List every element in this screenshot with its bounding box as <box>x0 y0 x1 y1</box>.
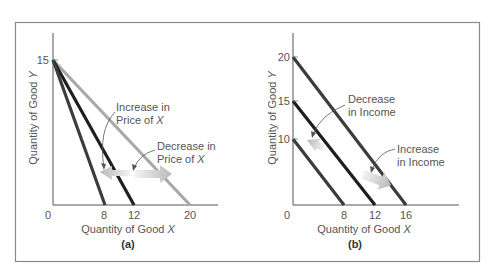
x-tick-12: 12 <box>128 209 140 221</box>
x-tick-12: 12 <box>369 209 381 221</box>
x-tick-8: 8 <box>101 209 107 221</box>
x-tick-0: 0 <box>284 209 290 221</box>
y-axis-label-b: Quantity of Good Y <box>266 71 278 165</box>
annotation-increase-price-l2: Price of X <box>116 114 164 126</box>
figure: Increase in Price of X Decrease in Price… <box>0 0 493 277</box>
x-tick-20: 20 <box>184 209 196 221</box>
panel-a: Increase in Price of X Decrease in Price… <box>27 33 218 250</box>
y-axis-label-a: Quantity of Good Y <box>27 71 39 165</box>
x-tick-0: 0 <box>45 209 51 221</box>
budget-line-8 <box>53 60 105 205</box>
leader-arrowhead-icon <box>370 166 375 173</box>
x-axis-label-b: Quantity of Good X <box>317 223 411 235</box>
annotation-decrease-price-l1: Decrease in <box>157 140 216 152</box>
x-tick-8: 8 <box>341 209 347 221</box>
panel-label-b: (b) <box>348 238 362 250</box>
panel-b: Decrease in Income Increase in Income 20… <box>266 33 459 250</box>
y-tick-15: 15 <box>37 54 49 66</box>
annotation-decrease-income-l1: Decrease <box>348 93 395 105</box>
x-axis-label-a: Quantity of Good X <box>81 223 175 235</box>
annotation-decrease-income-l2: in Income <box>348 106 396 118</box>
annotation-increase-income-l1: Increase <box>397 143 439 155</box>
leader-arrowhead-icon <box>101 163 106 170</box>
y-tick-10: 10 <box>278 133 290 145</box>
annotation-increase-price-l1: Increase in <box>116 101 170 113</box>
annotation-decrease-price-l2: Price of X <box>157 153 205 165</box>
panel-label-a: (a) <box>121 238 135 250</box>
leader-arrowhead-icon <box>311 131 316 138</box>
annotation-increase-income-l2: in Income <box>397 156 445 168</box>
y-tick-15: 15 <box>278 95 290 107</box>
leader-arrowhead-icon <box>132 164 137 171</box>
x-tick-16: 16 <box>400 209 412 221</box>
y-tick-20: 20 <box>278 51 290 63</box>
